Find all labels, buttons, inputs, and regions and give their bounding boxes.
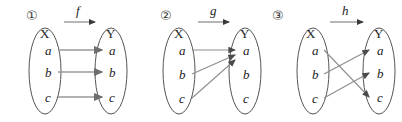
codomain-element-a: a [377, 44, 384, 57]
codomain-element-a: a [243, 44, 250, 57]
codomain-element-b: b [243, 68, 250, 81]
domain-element-c: c [312, 92, 318, 105]
domain-label: X [40, 27, 49, 40]
map-label: g [210, 4, 217, 17]
codomain-element-b: b [377, 67, 384, 80]
domain-label: X [174, 27, 183, 40]
codomain-element-a: a [109, 44, 116, 57]
domain-element-c: c [179, 92, 185, 105]
domain-element-a: a [312, 44, 319, 57]
domain-element-b: b [179, 68, 186, 81]
diagram-panel-2: ② X Y g a b c a b c [134, 0, 268, 122]
domain-label: X [306, 27, 315, 40]
diagram-panel-1: ① X Y f a b c a b c [0, 0, 134, 122]
domain-element-b: b [45, 66, 52, 79]
mapping-arrow-c-b [324, 73, 369, 98]
codomain-element-c: c [243, 92, 249, 105]
domain-element-a: a [179, 44, 186, 57]
mapping-arrow-a-c [324, 50, 369, 97]
mapping-arrow-b-a [324, 50, 369, 74]
map-label: h [342, 4, 349, 17]
map-label: f [76, 4, 80, 17]
mapping-arrow-c-a [192, 60, 235, 98]
codomain-label: Y [240, 27, 249, 40]
codomain-element-c: c [377, 91, 383, 104]
diagram-panel-3: ③ X Y h a b c a b c [268, 0, 402, 122]
panel-index-3: ③ [272, 9, 284, 22]
domain-element-c: c [45, 91, 51, 104]
panel-index-2: ② [160, 9, 172, 22]
panel-index-1: ① [26, 9, 38, 22]
function-diagram-figure: ① X Y f a b c a b c [0, 0, 402, 122]
codomain-label: Y [106, 27, 115, 40]
domain-element-b: b [312, 68, 319, 81]
codomain-element-b: b [109, 66, 116, 79]
codomain-element-c: c [109, 91, 115, 104]
codomain-label: Y [374, 27, 383, 40]
domain-element-a: a [45, 44, 52, 57]
